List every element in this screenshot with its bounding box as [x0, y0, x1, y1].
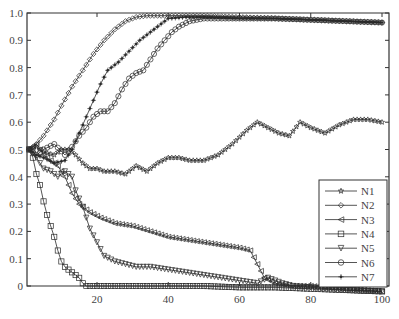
- line-chart: 00.10.20.30.40.50.60.70.80.91.0204060801…: [0, 0, 399, 319]
- series-n7: [27, 14, 385, 165]
- y-tick-label: 0.3: [9, 198, 23, 210]
- legend-label: N3: [361, 214, 375, 226]
- series-n1: [27, 117, 385, 176]
- y-tick-label: 0.9: [9, 34, 23, 46]
- x-tick-label: 60: [234, 293, 246, 305]
- y-tick-label: 0.7: [9, 89, 23, 101]
- series-n6: [27, 16, 385, 158]
- y-tick-label: 0.1: [9, 253, 23, 265]
- legend-label: N5: [361, 242, 375, 254]
- y-tick-label: 0.5: [9, 144, 23, 156]
- y-tick-label: 0.6: [9, 116, 23, 128]
- legend-label: N2: [361, 199, 374, 211]
- y-tick-label: 0.8: [9, 62, 23, 74]
- legend-label: N1: [361, 185, 374, 197]
- x-tick-label: 40: [163, 293, 175, 305]
- x-tick-label: 20: [92, 293, 104, 305]
- legend-label: N4: [361, 228, 375, 240]
- y-tick-label: 0.4: [9, 171, 23, 183]
- x-tick-label: 80: [305, 293, 317, 305]
- legend: N1N2N3N4N5N6N7: [319, 180, 387, 287]
- legend-label: N7: [361, 271, 375, 283]
- y-tick-label: 1.0: [9, 7, 23, 19]
- x-tick-label: 100: [374, 293, 391, 305]
- y-tick-label: 0: [18, 280, 24, 292]
- legend-label: N6: [361, 257, 375, 269]
- y-tick-label: 0.2: [9, 225, 23, 237]
